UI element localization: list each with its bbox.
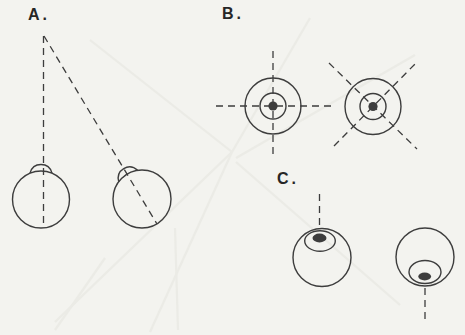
pupil xyxy=(313,234,327,243)
paper-background xyxy=(0,0,465,335)
eye-alignment-figure: A. B. xyxy=(0,0,465,335)
figure-canvas: A. B. xyxy=(0,0,465,335)
panel-a-label: A. xyxy=(28,6,50,23)
pupil xyxy=(418,273,431,281)
center-dot xyxy=(368,102,377,111)
center-dot xyxy=(268,101,277,110)
panel-b-label: B. xyxy=(222,5,244,22)
panel-c-label: C. xyxy=(277,170,299,187)
